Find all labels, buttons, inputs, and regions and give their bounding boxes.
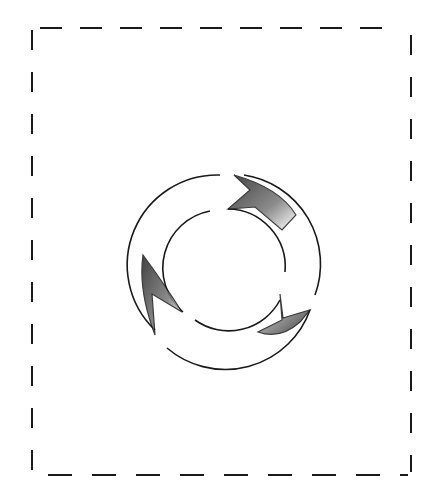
dashed-frame bbox=[32, 28, 411, 475]
figure-canvas bbox=[0, 0, 436, 500]
arrow-head-bottom-right bbox=[258, 294, 310, 334]
cycle-arrows-icon bbox=[127, 175, 320, 370]
arrow-head-top-right bbox=[228, 175, 296, 230]
